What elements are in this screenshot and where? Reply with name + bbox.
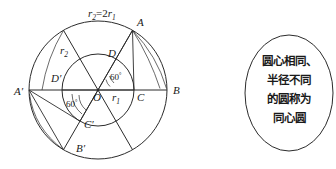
callout-line-2: 半径不同 <box>267 73 311 87</box>
label-point-b: B <box>173 84 180 96</box>
label-point-c-prime: C′ <box>84 118 94 130</box>
label-r2: r2 <box>60 44 68 59</box>
label-point-d: D <box>107 47 116 59</box>
label-radius-relation: r2=2r1 <box>88 7 116 22</box>
arc-a-to-b-inner <box>133 30 161 88</box>
label-r2-sub-diag: 2 <box>64 50 68 59</box>
label-angle-upper-degree: ° <box>119 72 122 78</box>
label-point-d-prime: D′ <box>50 72 62 84</box>
label-r1: r1 <box>112 91 120 106</box>
label-angle-lower-degree: ° <box>75 99 78 105</box>
callout-line-4: 同心圆 <box>273 111 306 125</box>
callout-line-1: 圆心相同、 <box>262 54 317 68</box>
label-r1-sub: 1 <box>116 97 120 106</box>
label-r1-sub-top: 1 <box>112 13 116 22</box>
concentric-circles-figure: r2=2r1 A B C D A′ B′ C′ D′ O r1 r2 60° 6… <box>0 0 336 169</box>
label-angle-upper: 60° <box>110 72 122 82</box>
label-point-a-prime: A′ <box>13 85 24 97</box>
chord-aprime-bprime <box>29 90 64 150</box>
angle-arc-lower <box>79 95 86 110</box>
label-point-c: C <box>137 91 145 103</box>
label-center-o: O <box>93 91 101 103</box>
chord-a-d <box>116 30 133 59</box>
label-equals-two: =2 <box>96 7 108 19</box>
label-point-a: A <box>136 16 144 28</box>
label-point-b-prime: B′ <box>76 142 86 154</box>
callout-line-3: 的圆称为 <box>267 92 311 106</box>
